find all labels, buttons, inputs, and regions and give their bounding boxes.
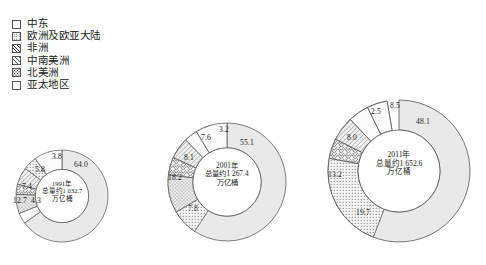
value-asia-pacific-2001: 7.8 — [188, 204, 198, 213]
donut-hole-1991 — [35, 169, 88, 222]
value-asia-pacific-2011: 19.7 — [356, 208, 370, 217]
value-middle-east-2011: 48.1 — [416, 117, 430, 126]
value-north-america-2011: 13.2 — [328, 170, 342, 179]
value-north-america-1991: 12.7 — [13, 196, 27, 205]
charts-area: 1991年 总量约1 032.7 万亿桶 64.0 3.8 5.8 7.4 12… — [0, 0, 486, 265]
value-central-south-america-1991: 7.4 — [22, 182, 32, 191]
donut-svg-2001 — [163, 118, 291, 246]
value-central-south-america-2011: 8.5 — [390, 101, 400, 110]
value-north-america-2001: 18.2 — [168, 173, 182, 182]
value-central-south-america-2001: 8.1 — [184, 153, 194, 162]
value-europe-eurasia-2011: 2.5 — [371, 107, 381, 116]
donut-hole-2001 — [193, 148, 261, 216]
donut-svg-2011 — [322, 94, 476, 248]
value-europe-eurasia-1991: 3.8 — [52, 152, 62, 161]
value-asia-pacific-1991: 4.3 — [31, 196, 41, 205]
value-africa-2001: 7.6 — [201, 133, 211, 142]
donut-chart-1991: 1991年 总量约1 032.7 万亿桶 64.0 3.8 5.8 7.4 12… — [12, 146, 112, 246]
value-europe-eurasia-2001: 3.2 — [219, 125, 229, 134]
value-africa-2011: 8.0 — [347, 133, 357, 142]
value-africa-1991: 5.8 — [35, 165, 45, 174]
donut-chart-2011: 2011年 总量约1 652.6 万亿桶 48.1 8.5 2.5 8.0 13… — [322, 94, 476, 248]
donut-chart-2001: 2001年 总量约1 267.4 万亿桶 55.1 3.2 7.6 8.1 18… — [163, 118, 291, 246]
value-middle-east-2001: 55.1 — [240, 138, 254, 147]
donut-hole-2011 — [358, 130, 440, 212]
value-middle-east-1991: 64.0 — [74, 160, 88, 169]
